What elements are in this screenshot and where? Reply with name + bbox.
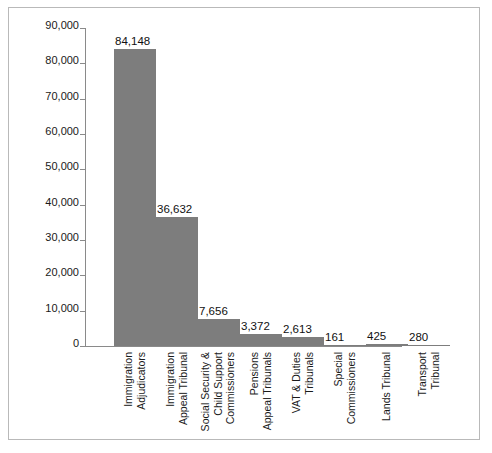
bar-value-label: 3,372 xyxy=(241,320,270,332)
x-axis-category-label-line: Pensions xyxy=(249,352,261,448)
x-axis-category-label: SpecialCommissioners xyxy=(333,352,347,448)
bar xyxy=(408,345,450,346)
x-axis-category-label-line: Social Security & xyxy=(200,352,212,448)
x-axis-category-label-line: Tribunal xyxy=(429,352,441,448)
bar-value-label: 425 xyxy=(367,330,386,342)
bar xyxy=(240,334,282,346)
x-axis-category-label-line: Commissioners xyxy=(345,352,357,448)
x-axis-category-label: PensionsAppeal Tribunals xyxy=(249,352,263,448)
x-axis-category-label: TransportTribunal xyxy=(417,352,431,448)
bar xyxy=(366,344,408,346)
bar xyxy=(198,319,240,346)
x-axis-category-label: ImmigrationAppeal Tribunal xyxy=(165,352,179,448)
x-axis-category-label-line: Special xyxy=(333,352,345,448)
x-axis-category-label: VAT & DutiesTribunals xyxy=(291,352,305,448)
bar-value-label: 7,656 xyxy=(199,305,228,317)
x-axis-category-label-line: Lands Tribunal xyxy=(381,352,393,448)
bar-value-label: 36,632 xyxy=(157,203,192,215)
bar-value-label: 280 xyxy=(409,331,428,343)
chart-frame: 90,00080,00070,00060,00050,00040,00030,0… xyxy=(8,7,480,440)
x-axis-category-label-line: Commissioners xyxy=(225,352,237,448)
bar-value-label: 2,613 xyxy=(283,323,312,335)
bar-value-label: 161 xyxy=(325,331,344,343)
bar-chart-plot-area: 90,00080,00070,00060,00050,00040,00030,0… xyxy=(9,8,481,441)
x-axis-category-label: Social Security &Child SupportCommission… xyxy=(200,352,214,448)
x-axis-category-label-line: Appeal Tribunal xyxy=(177,352,189,448)
x-axis-category-label-line: VAT & Duties xyxy=(291,352,303,448)
x-axis-category-label-line: Appeal Tribunals xyxy=(261,352,273,448)
x-axis-category-label-line: Tribunals xyxy=(303,352,315,448)
x-axis-category-label: Lands Tribunal xyxy=(381,352,395,448)
x-axis-category-label-line: Transport xyxy=(417,352,429,448)
bar xyxy=(156,217,198,346)
x-axis-category-label: ImmigrationAdjudicators xyxy=(123,352,137,448)
bar-series-group: 84,14836,6327,6563,3722,613161425280 xyxy=(9,8,481,441)
bar-value-label: 84,148 xyxy=(115,35,150,47)
bar xyxy=(324,345,366,346)
bar xyxy=(282,337,324,346)
x-axis-category-label-line: Immigration xyxy=(123,352,135,448)
x-axis-category-label-line: Adjudicators xyxy=(135,352,147,448)
x-axis-category-label-line: Immigration xyxy=(165,352,177,448)
bar xyxy=(114,49,156,346)
x-axis-category-label-line: Child Support xyxy=(213,352,225,448)
